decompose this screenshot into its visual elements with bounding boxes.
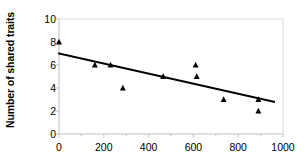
plot-frame	[59, 19, 283, 134]
data-point-marker	[255, 108, 261, 114]
chart-figure: Number of shared traits 0246810 02004006…	[0, 0, 307, 168]
data-point-marker	[193, 62, 199, 68]
data-point-marker	[120, 85, 126, 91]
data-point-marker	[221, 96, 227, 102]
data-point-marker	[194, 73, 200, 79]
plot-area	[0, 0, 307, 168]
trend-line-segment	[59, 54, 274, 102]
trend-line	[59, 54, 274, 102]
